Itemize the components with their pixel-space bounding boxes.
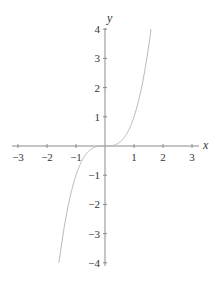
cubic-function-plot: −3−2−1123−4−3−2−11234 x y xyxy=(0,0,220,285)
x-tick-label: 2 xyxy=(160,151,166,163)
y-tick-label: 4 xyxy=(95,23,101,35)
x-tick-label: −1 xyxy=(70,151,82,163)
y-tick-label: −4 xyxy=(88,257,100,269)
y-tick-label: 1 xyxy=(95,111,101,123)
x-tick-label: 1 xyxy=(131,151,137,163)
x-axis-label: x xyxy=(202,138,209,152)
y-axis-label: y xyxy=(106,11,113,25)
x-tick-label: 3 xyxy=(189,151,195,163)
y-tick-label: 2 xyxy=(95,82,101,94)
y-tick-label: 3 xyxy=(95,52,101,64)
axes xyxy=(12,28,199,266)
x-tick-label: −3 xyxy=(12,151,24,163)
x-tick-label: −2 xyxy=(41,151,53,163)
y-tick-label: −2 xyxy=(88,198,100,210)
y-tick-label: −1 xyxy=(88,169,100,181)
y-tick-label: −3 xyxy=(88,228,100,240)
